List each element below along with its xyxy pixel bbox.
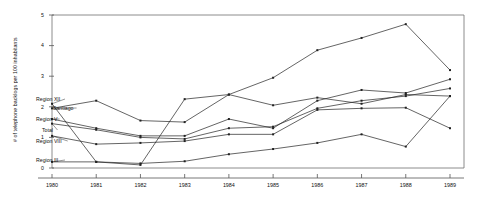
- series-data-point: [228, 153, 230, 155]
- y-axis-tick-label: 0: [32, 165, 44, 171]
- x-axis-tick-label: 1982: [123, 182, 157, 188]
- y-axis-tick-label: 2: [32, 104, 44, 110]
- series-data-point: [449, 69, 451, 71]
- series-label-region-v: Region V: [36, 116, 57, 122]
- series-data-point: [449, 127, 451, 129]
- series-label-region-xii: Region XII: [36, 96, 60, 102]
- series-data-point: [95, 129, 97, 131]
- x-axis-tick-label: 1981: [79, 182, 113, 188]
- series-data-point: [361, 37, 363, 39]
- series-data-point: [405, 23, 407, 25]
- series-data-point: [449, 87, 451, 89]
- series-data-point: [361, 103, 363, 105]
- chart-figure: # of telephone backlogs per 100 inhabita…: [0, 0, 486, 199]
- series-data-point: [272, 133, 274, 135]
- series-data-point: [184, 160, 186, 162]
- series-data-point: [139, 162, 141, 164]
- series-line: [52, 95, 450, 165]
- plot-frame: [52, 15, 464, 168]
- series-data-point: [95, 143, 97, 145]
- series-data-point: [405, 95, 407, 97]
- series-label-santiago: Santiago: [53, 105, 73, 111]
- series-data-point: [272, 126, 274, 128]
- series-data-point: [184, 138, 186, 140]
- x-axis-tick-label: 1980: [35, 182, 69, 188]
- series-data-point: [405, 107, 407, 109]
- series-data-point: [449, 78, 451, 80]
- series-data-point: [361, 107, 363, 109]
- series-label-region-viii: Region VIII: [36, 138, 62, 144]
- series-data-point: [228, 118, 230, 120]
- series-data-point: [228, 94, 230, 96]
- series-data-point: [272, 104, 274, 106]
- x-axis-tick-label: 1989: [433, 182, 467, 188]
- series-line: [52, 108, 450, 144]
- x-axis-tick-label: 1988: [389, 182, 423, 188]
- series-data-point: [184, 98, 186, 100]
- series-data-point: [316, 109, 318, 111]
- y-axis-tick-label: 4: [32, 42, 44, 48]
- series-data-point: [272, 148, 274, 150]
- series-data-point: [316, 100, 318, 102]
- x-axis-tick-label: 1987: [345, 182, 379, 188]
- series-data-point: [228, 133, 230, 135]
- line-chart-plot: [0, 0, 486, 199]
- x-axis-tick-label: 1985: [256, 182, 290, 188]
- y-axis-tick-label: 5: [32, 12, 44, 18]
- series-data-point: [95, 100, 97, 102]
- series-data-point: [184, 140, 186, 142]
- series-data-point: [95, 161, 97, 163]
- series-data-point: [405, 146, 407, 148]
- x-axis-tick-label: 1983: [168, 182, 202, 188]
- series-line: [52, 24, 450, 122]
- series-data-point: [316, 49, 318, 51]
- series-data-point: [139, 142, 141, 144]
- series-data-point: [449, 95, 451, 97]
- series-line: [52, 96, 450, 163]
- series-data-point: [316, 97, 318, 99]
- series-data-point: [184, 135, 186, 137]
- series-data-point: [316, 142, 318, 144]
- series-label-region-iii: Region III: [36, 157, 58, 163]
- series-data-point: [184, 121, 186, 123]
- series-data-point: [361, 100, 363, 102]
- series-data-point: [228, 127, 230, 129]
- y-axis-tick-label: 3: [32, 73, 44, 79]
- series-data-point: [51, 123, 53, 125]
- series-data-point: [405, 92, 407, 94]
- series-data-point: [139, 120, 141, 122]
- x-axis-tick-label: 1986: [300, 182, 334, 188]
- series-data-point: [361, 133, 363, 135]
- series-data-point: [361, 89, 363, 91]
- series-data-point: [139, 136, 141, 138]
- series-data-point: [272, 77, 274, 79]
- series-line: [52, 88, 450, 138]
- series-label-total: Total: [42, 127, 53, 133]
- x-axis-tick-label: 1984: [212, 182, 246, 188]
